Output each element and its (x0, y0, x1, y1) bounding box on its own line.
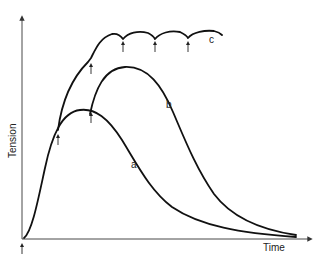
curve-a (24, 110, 296, 238)
stimulus-arrow-icon (153, 41, 157, 52)
curve-b (90, 67, 296, 235)
stimulus-arrow-icon (56, 134, 60, 145)
curve-label-c: c (209, 34, 214, 45)
curve-c (58, 31, 222, 130)
stimulus-arrow-icon (89, 63, 93, 74)
x-axis-label: Time (263, 242, 285, 253)
stimulus-arrow-icon (186, 41, 190, 52)
stimulus-arrows (20, 41, 190, 254)
y-axis-label: Tension (7, 124, 18, 158)
curve-label-b: b (166, 99, 172, 110)
stimulus-arrow-icon (121, 41, 125, 52)
stimulus-arrow-icon (20, 243, 24, 254)
curve-label-a: a (131, 159, 137, 170)
tension-time-diagram: Tension Time (0, 0, 319, 257)
